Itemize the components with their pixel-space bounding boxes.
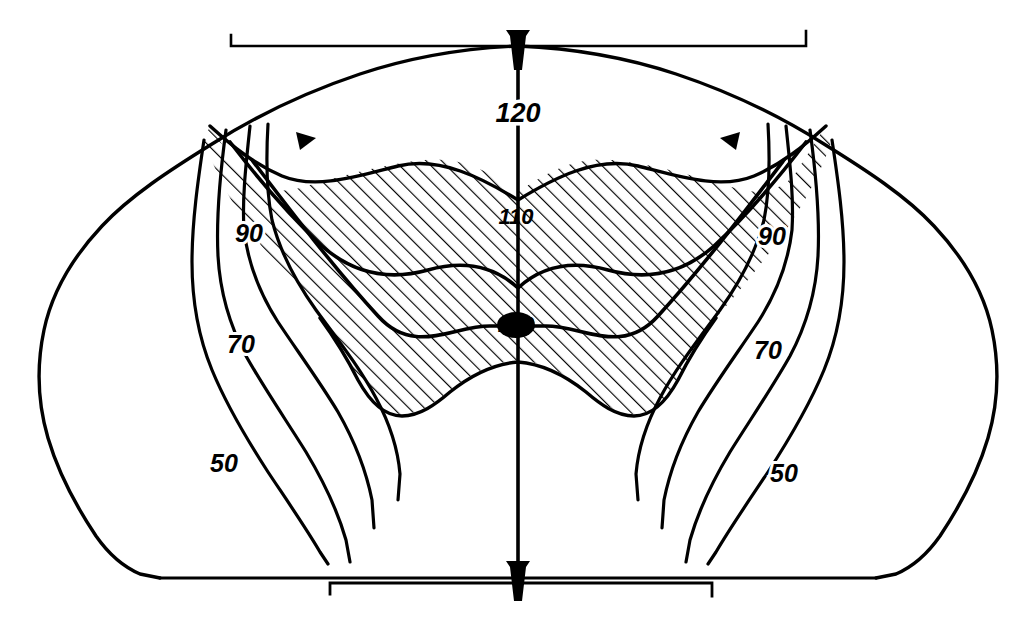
contour-diagram-svg: 120 110 100 90 70 50 90 70 50: [0, 0, 1010, 621]
top-arrowhead-icon: [506, 30, 530, 70]
contour-label-50-right: 50: [770, 459, 798, 487]
contour-label-110: 110: [498, 204, 534, 229]
contour-label-100-ink-blot: [497, 312, 535, 338]
contour-label-70-left: 70: [227, 330, 255, 358]
contour-label-90-left: 90: [235, 219, 263, 247]
contour-label-110-text: 110: [498, 204, 534, 229]
right-lead-arrowhead: [720, 132, 740, 150]
contour-label-50-left: 50: [210, 449, 238, 477]
contour-label-90-right: 90: [758, 222, 786, 250]
bottom-arrowhead-icon: [506, 561, 530, 601]
contour-label-120: 120: [495, 98, 540, 128]
left-lead-arrowhead: [296, 132, 316, 150]
contour-label-120-text: 120: [495, 98, 540, 128]
contour-label-70-right: 70: [754, 336, 782, 364]
contour-label-100: 100: [497, 312, 535, 338]
contour-figure-canvas: 120 110 100 90 70 50 90 70 50: [0, 0, 1010, 621]
